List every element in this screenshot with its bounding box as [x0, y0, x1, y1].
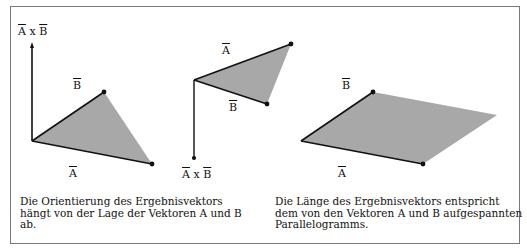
parallelogram — [301, 92, 497, 164]
right-diagram — [301, 92, 497, 164]
caption-orientation: Die Orientierung des Ergebnisvektors hän… — [20, 196, 242, 231]
arrowhead-icon — [30, 42, 34, 48]
label-vector-a: A — [338, 168, 346, 180]
label-vector-b: B — [342, 80, 350, 92]
label-vector-a: A — [69, 168, 77, 180]
label-vector-a: A — [222, 45, 230, 57]
label-cross-product: A x B — [182, 169, 211, 181]
label-vector-b: B — [73, 80, 81, 92]
middle-diagram — [194, 44, 291, 158]
left-diagram — [30, 42, 152, 164]
label-cross-product: A x B — [18, 26, 47, 38]
label-vector-b: B — [229, 102, 237, 114]
caption-length: Die Länge des Ergebnisvektors entspricht… — [275, 196, 522, 231]
